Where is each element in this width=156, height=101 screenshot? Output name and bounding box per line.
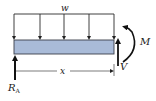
- load-label: w: [61, 3, 69, 13]
- beam-diagram: w RA x V M: [0, 0, 156, 101]
- beam-segment: [14, 40, 114, 54]
- distance-label: x: [60, 66, 65, 76]
- moment-label: M: [139, 36, 151, 47]
- moment-arrow-icon: [123, 27, 135, 62]
- distributed-load: [14, 14, 114, 38]
- shear-label: V: [120, 61, 129, 72]
- reaction-label: RA: [7, 82, 21, 94]
